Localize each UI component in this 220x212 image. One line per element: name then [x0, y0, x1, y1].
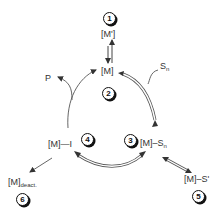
arrow-msn-ms-prime [162, 157, 192, 173]
equilibrium-arrow-m-prime-m [108, 40, 112, 63]
badge-5: 5 [192, 190, 205, 203]
badge-3: 3 [124, 134, 137, 147]
node-m-sn: [M]–Sn [140, 139, 167, 149]
node-m-prime: [M'] [101, 30, 115, 39]
node-m-deact-sub: deact. [21, 182, 37, 188]
node-m-i: [M]—I [48, 140, 72, 149]
input-sn-sub: n [166, 66, 169, 72]
node-m-s-prime: [M]–S' [184, 175, 209, 184]
node-m-sn-sub: n [164, 143, 167, 149]
badge-4: 4 [81, 133, 94, 146]
badge-2: 2 [102, 87, 115, 100]
arrow-msn-mi [74, 151, 146, 166]
input-sn: Sn [160, 62, 169, 72]
output-p: P [45, 74, 51, 83]
node-m-sn-main: [M]–S [140, 138, 164, 148]
node-m-deact-main: [M] [8, 177, 21, 187]
node-m: [M] [101, 67, 114, 76]
arrow-mi-to-deact [30, 158, 52, 172]
arrow-mi-to-m [58, 70, 96, 128]
badge-6: 6 [16, 193, 29, 206]
node-m-deact: [M]deact. [8, 178, 37, 188]
arrow-m-to-msn [118, 70, 158, 127]
badge-1: 1 [103, 12, 116, 25]
